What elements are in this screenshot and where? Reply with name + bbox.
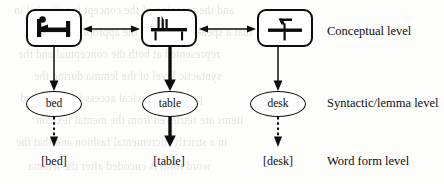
desk-icon bbox=[259, 11, 311, 45]
lateral-arrow-bed-table bbox=[83, 22, 140, 36]
table-icon bbox=[143, 11, 195, 45]
word-form-table: [table] bbox=[139, 154, 199, 169]
word-form-bed: [bed] bbox=[24, 154, 84, 169]
lemma-label-bed: bed bbox=[46, 98, 63, 110]
lateral-arrow-table-desk bbox=[199, 22, 256, 36]
diagram-page: and the meaning of the concept is activa… bbox=[0, 0, 444, 184]
lemma-ellipse-desk[interactable]: desk bbox=[250, 91, 306, 117]
concept-box-bed[interactable] bbox=[26, 9, 82, 47]
concept-box-table[interactable] bbox=[141, 9, 197, 47]
bed-icon bbox=[28, 11, 80, 45]
word-form-desk: [desk] bbox=[248, 154, 308, 169]
lemma-label-desk: desk bbox=[267, 98, 288, 110]
diagram-canvas: Conceptual level bed table desk Syntacti… bbox=[0, 0, 444, 184]
arrow-lemma-to-form-bed bbox=[47, 117, 61, 147]
arrow-concept-to-lemma-desk bbox=[271, 47, 285, 91]
arrow-concept-to-lemma-table bbox=[162, 47, 178, 91]
arrow-lemma-to-form-table bbox=[162, 117, 178, 147]
arrow-lemma-to-form-desk bbox=[271, 117, 285, 147]
level-label-word-form: Word form level bbox=[327, 154, 409, 169]
lemma-ellipse-bed[interactable]: bed bbox=[26, 91, 82, 117]
level-label-conceptual: Conceptual level bbox=[327, 24, 411, 39]
lemma-ellipse-table[interactable]: table bbox=[142, 91, 198, 117]
concept-box-desk[interactable] bbox=[257, 9, 313, 47]
arrow-concept-to-lemma-bed bbox=[47, 47, 61, 91]
lemma-label-table: table bbox=[159, 98, 181, 110]
level-label-syntactic: Syntactic/lemma level bbox=[327, 96, 438, 111]
